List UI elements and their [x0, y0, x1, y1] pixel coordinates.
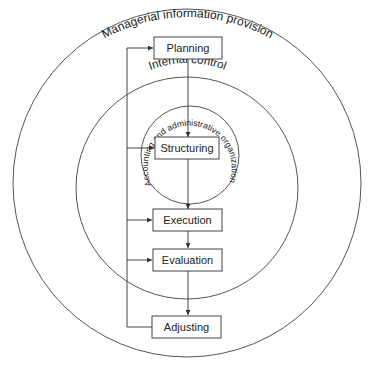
step-structuring: Structuring [155, 137, 219, 159]
feedback-loop-line [127, 48, 153, 327]
svg-text:Adjusting: Adjusting [164, 321, 209, 333]
step-evaluation: Evaluation [153, 249, 222, 271]
svg-text:Structuring: Structuring [160, 142, 213, 154]
svg-text:Planning: Planning [167, 42, 210, 54]
outer-ring-label: Managerial information provision [99, 6, 276, 41]
svg-text:Evaluation: Evaluation [162, 254, 213, 266]
step-adjusting: Adjusting [152, 316, 221, 338]
step-execution: Execution [153, 209, 222, 231]
management-cycle-diagram: Managerial information provision Interna… [0, 0, 374, 366]
svg-text:Execution: Execution [163, 214, 211, 226]
step-planning: Planning [154, 37, 222, 59]
